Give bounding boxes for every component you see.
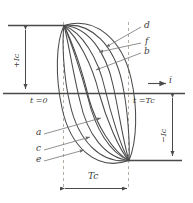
time-start-label: t =0	[30, 97, 48, 105]
leader-line-a	[44, 118, 101, 134]
curve-label-e: e	[36, 155, 41, 164]
time-end-label: t =Tc	[133, 97, 155, 105]
curve-label-c: c	[36, 144, 41, 153]
period-label: Tc	[88, 172, 98, 181]
leader-line-e	[44, 150, 84, 161]
curve-label-f: f	[145, 37, 148, 46]
curve-label-d: d	[144, 21, 150, 30]
negative-critical-label: −Ic	[160, 129, 168, 143]
positive-critical-label: +Ic	[13, 54, 21, 68]
current-axis-label: i	[169, 76, 172, 85]
curve-label-a: a	[36, 128, 41, 137]
hysteresis-loop-figure: d f b a c e +Ic −Ic t =0 t =Tc i Tc	[0, 0, 193, 203]
callout-leaders-left	[44, 118, 101, 161]
leader-line-c	[44, 137, 90, 150]
curve-label-b: b	[144, 47, 150, 56]
